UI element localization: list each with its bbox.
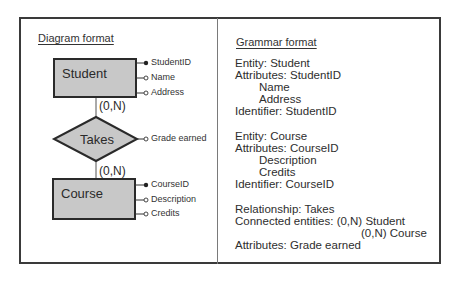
entity-course-label: Course	[61, 186, 103, 201]
grammar-line: Identifier: StudentID	[235, 105, 337, 118]
grammar-line: (0,N) Course	[361, 227, 427, 240]
identifier-dot-icon	[144, 61, 148, 65]
identifier-dot-icon	[144, 183, 148, 187]
grammar-line: Attributes: Grade earned	[235, 239, 361, 252]
attribute-circle-icon	[144, 212, 148, 216]
attribute-circle-icon	[144, 137, 148, 141]
attribute-label: Name	[151, 72, 175, 82]
attribute-label: Credits	[151, 208, 180, 218]
attribute-circle-icon	[144, 76, 148, 80]
relationship-attribute-label: Grade earned	[151, 133, 207, 143]
attribute-circle-icon	[144, 91, 148, 95]
attribute-circle-icon	[144, 198, 148, 202]
grammar-line: Identifier: CourseID	[235, 178, 334, 191]
cardinality-label: (0,N)	[99, 99, 126, 113]
grammar-heading: Grammar format	[236, 36, 317, 48]
attribute-label: Address	[151, 87, 184, 97]
attribute-label: Description	[151, 194, 196, 204]
er-diagram	[0, 0, 463, 290]
entity-student-label: Student	[62, 66, 107, 81]
attribute-label: StudentID	[151, 57, 191, 67]
relationship-takes-label: Takes	[80, 132, 114, 147]
attribute-label: CourseID	[151, 179, 189, 189]
cardinality-label: (0,N)	[99, 164, 126, 178]
